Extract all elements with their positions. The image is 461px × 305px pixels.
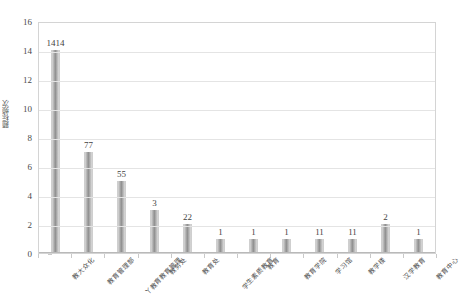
bar[interactable]: [84, 152, 93, 254]
x-tick-label: 汉学教育: [402, 256, 427, 281]
bar-value-label: 1: [251, 228, 256, 237]
bar-slot[interactable]: 77: [72, 23, 105, 253]
bar-slot[interactable]: 1: [402, 23, 435, 253]
x-tick-label: 教育管理部: [106, 256, 136, 286]
plot-area: 14147755322111111121: [38, 22, 436, 254]
gridline: [39, 197, 435, 198]
bar-slot[interactable]: 1: [270, 23, 303, 253]
x-axis-labels: 教大众化教育管理部丫教育教育管理教务处教育处学生素质教育教育教育学院学习馆教学楼…: [38, 256, 436, 304]
bar-series: 14147755322111111121: [39, 23, 435, 253]
x-tick-label: 教学楼: [367, 256, 387, 276]
y-tick-label: 16: [23, 18, 32, 27]
bar-value-label: 77: [84, 141, 93, 150]
bar-slot[interactable]: 55: [105, 23, 138, 253]
x-tick-label: 教育中心: [436, 256, 461, 281]
bar-slot[interactable]: 3: [138, 23, 171, 253]
bar[interactable]: [315, 239, 324, 254]
y-tick-label: 12: [23, 76, 32, 85]
bar-value-label: 11: [348, 228, 357, 237]
y-axis-ticks: 1614121086420: [14, 22, 36, 254]
bar-value-label: 1: [284, 228, 289, 237]
gridline: [39, 226, 435, 227]
gridline: [39, 52, 435, 53]
gridline: [39, 139, 435, 140]
bar[interactable]: [249, 239, 258, 254]
x-tick-label: 学习馆: [334, 256, 354, 276]
bar-value-label: 2: [383, 213, 388, 222]
bar-slot[interactable]: 11: [303, 23, 336, 253]
bar-slot[interactable]: 1: [204, 23, 237, 253]
x-tick-label: 教育处: [201, 256, 221, 276]
bar-slot[interactable]: 2: [369, 23, 402, 253]
bar-value-label: 1: [218, 228, 223, 237]
x-tick-label: 教育学院: [303, 256, 328, 281]
gridline: [39, 110, 435, 111]
bar[interactable]: [282, 239, 291, 254]
bar[interactable]: [414, 239, 423, 254]
bar-value-label: 55: [117, 170, 126, 179]
bar-slot[interactable]: 1: [237, 23, 270, 253]
bar-value-label: 22: [183, 213, 192, 222]
bar[interactable]: [150, 210, 159, 254]
y-tick-label: 8: [28, 134, 33, 143]
bar[interactable]: [381, 224, 390, 253]
axis-baseline: [39, 252, 435, 253]
y-tick-label: 2: [28, 221, 33, 230]
y-tick-label: 0: [28, 250, 33, 259]
x-tick-label: 教大众化: [71, 256, 96, 281]
bar-slot[interactable]: 1414: [39, 23, 72, 253]
x-tick-label: 教务处: [168, 256, 188, 276]
gridline: [39, 81, 435, 82]
bar[interactable]: [348, 239, 357, 254]
bar-slot[interactable]: 11: [336, 23, 369, 253]
bar-slot[interactable]: 22: [171, 23, 204, 253]
y-tick-label: 6: [28, 163, 33, 172]
y-tick-label: 10: [23, 105, 32, 114]
bar-value-label: 1414: [47, 39, 65, 48]
y-tick-label: 14: [23, 47, 32, 56]
bar-value-label: 11: [315, 228, 324, 237]
bar-value-label: 3: [152, 199, 157, 208]
bar[interactable]: [117, 181, 126, 254]
bar[interactable]: [216, 239, 225, 254]
x-tick-mark: [436, 254, 437, 258]
bar-value-label: 1: [416, 228, 421, 237]
gridline: [39, 168, 435, 169]
bar[interactable]: [183, 224, 192, 253]
y-tick-label: 4: [28, 192, 33, 201]
